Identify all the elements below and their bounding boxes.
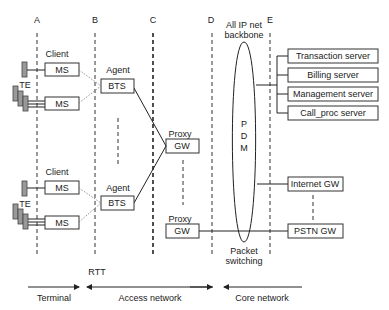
te-label-2: TE bbox=[19, 199, 31, 209]
column-e-label: E bbox=[267, 15, 273, 25]
backbone-ellipse bbox=[232, 42, 255, 242]
bts-label-2: BTS bbox=[108, 198, 126, 208]
te-device-1 bbox=[22, 62, 27, 77]
client-label-2: Client bbox=[45, 167, 69, 177]
client-label-1: Client bbox=[45, 49, 69, 59]
network-architecture-diagram: A B C D E All IP net backbone P D M Pack… bbox=[0, 0, 389, 310]
billing-server-label: Billing server bbox=[307, 70, 359, 80]
proxy-gw-label-2: GW bbox=[174, 226, 190, 236]
column-c-label: C bbox=[150, 15, 157, 25]
pdm-m: M bbox=[240, 143, 248, 153]
column-d-label: D bbox=[208, 15, 215, 25]
bts-label-1: BTS bbox=[108, 81, 126, 91]
access-network-label: Access network bbox=[118, 293, 182, 303]
te-label-1: TE bbox=[19, 80, 31, 90]
backbone-title: All IP net bbox=[226, 20, 262, 30]
te-device-1b bbox=[13, 86, 18, 101]
ms-label-1b: MS bbox=[55, 99, 69, 109]
column-b-label: B bbox=[92, 15, 98, 25]
core-network-label: Core network bbox=[235, 293, 289, 303]
te-device-2 bbox=[22, 181, 27, 196]
ms-label-1a: MS bbox=[55, 65, 69, 75]
pstn-gw-label: PSTN GW bbox=[294, 226, 337, 236]
rtt-label: RTT bbox=[88, 267, 106, 277]
terminal-label: Terminal bbox=[37, 293, 71, 303]
pdm-p: P bbox=[241, 119, 247, 129]
internet-gw-label: Internet GW bbox=[291, 179, 340, 189]
callproc-server-label: Call_proc server bbox=[300, 108, 366, 118]
ms-label-2a: MS bbox=[55, 183, 69, 193]
packet-label: Packet bbox=[230, 246, 258, 256]
proxy-gw-label-1: GW bbox=[174, 141, 190, 151]
proxy-label-2: Proxy bbox=[168, 214, 192, 224]
management-server-label: Management server bbox=[293, 89, 373, 99]
server-list: Transaction server Billing server Manage… bbox=[277, 49, 378, 120]
pdm-d: D bbox=[241, 131, 248, 141]
ms-label-2b: MS bbox=[55, 218, 69, 228]
transaction-server-label: Transaction server bbox=[296, 51, 370, 61]
column-a-label: A bbox=[34, 15, 40, 25]
backbone-title-2: backbone bbox=[224, 30, 263, 40]
switching-label: switching bbox=[225, 256, 262, 266]
agent-label-1: Agent bbox=[106, 65, 130, 75]
proxy-label-1: Proxy bbox=[168, 129, 192, 139]
agent-label-2: Agent bbox=[106, 183, 130, 193]
